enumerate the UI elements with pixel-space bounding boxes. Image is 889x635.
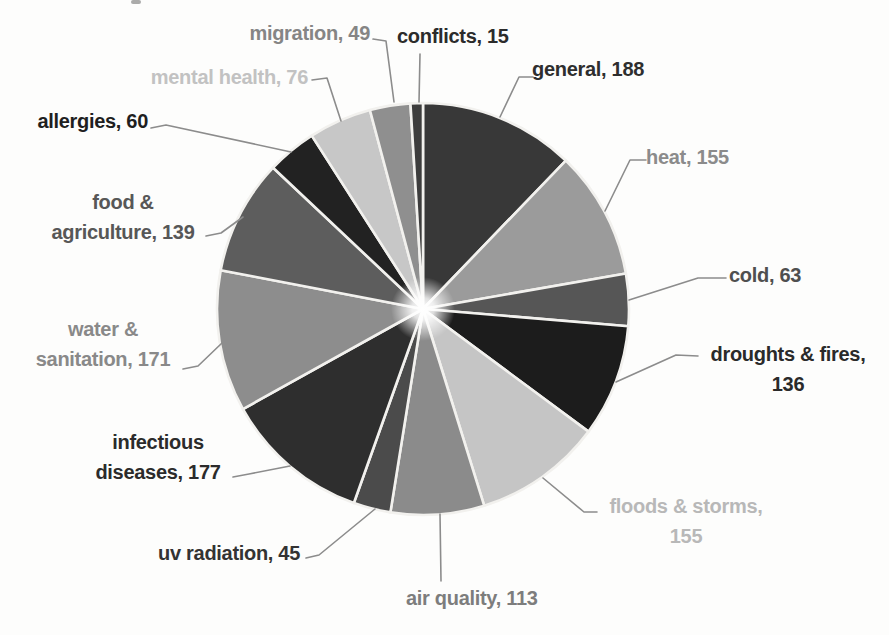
leader-line-uv-radiation bbox=[306, 509, 375, 558]
pie-center-flare bbox=[391, 277, 455, 341]
leader-line-droughts-fires bbox=[616, 355, 698, 382]
scan-artifact bbox=[131, 0, 141, 4]
leader-line-heat bbox=[605, 160, 646, 211]
pie-chart bbox=[0, 0, 889, 635]
leader-line-conflicts bbox=[419, 54, 420, 102]
leader-line-mental-health bbox=[312, 78, 341, 121]
leader-line-migration bbox=[373, 39, 394, 102]
leader-line-cold bbox=[629, 278, 726, 300]
leader-line-air-quality bbox=[440, 514, 441, 581]
leader-line-floods-storms bbox=[543, 478, 597, 512]
leader-line-general bbox=[500, 77, 533, 117]
pie-chart-figure: general, 188heat, 155cold, 63droughts & … bbox=[0, 0, 889, 635]
leader-line-water-sanitation bbox=[183, 343, 222, 369]
leader-line-infectious-diseases bbox=[233, 466, 290, 477]
leader-line-allergies bbox=[151, 125, 291, 152]
